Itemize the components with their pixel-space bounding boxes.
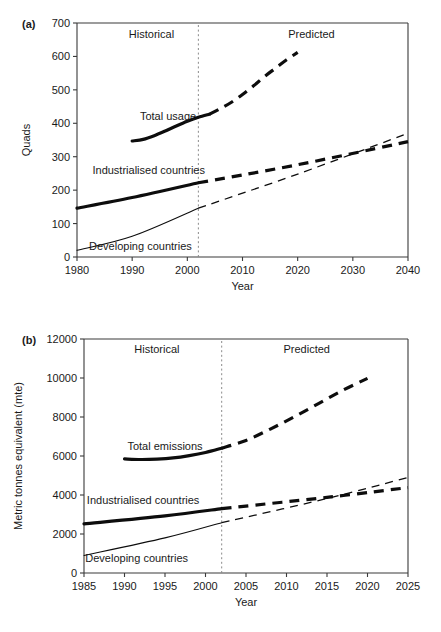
- annotation-total-emissions: Total emissions: [127, 440, 203, 452]
- x-tick-label: 2020: [355, 580, 379, 592]
- x-tick-label: 1995: [153, 580, 177, 592]
- panel-tag: (a): [22, 18, 36, 30]
- x-tick-label: 2010: [230, 264, 254, 276]
- series-total-usage-predicted: [209, 52, 297, 114]
- y-tick-label: 500: [52, 84, 70, 96]
- y-tick-label: 0: [71, 567, 77, 579]
- series-developing-countries-predicted: [198, 133, 408, 208]
- x-tick-label: 1990: [112, 580, 136, 592]
- x-tick-label: 1990: [120, 264, 144, 276]
- x-axis-title: Year: [231, 280, 254, 292]
- y-axis-title: Metric tonnes equivalent (mte): [12, 382, 24, 530]
- y-tick-label: 200: [52, 184, 70, 196]
- y-tick-label: 600: [52, 50, 70, 62]
- annotation-industrialised-countries: Industrialised countries: [92, 164, 205, 176]
- y-tick-label: 10000: [46, 372, 77, 384]
- annotation-predicted: Predicted: [288, 28, 334, 40]
- panel-b-plot: (b)0200040006000800010000120001985199019…: [0, 318, 441, 632]
- y-tick-label: 100: [52, 218, 70, 230]
- y-tick-label: 8000: [53, 411, 77, 423]
- annotation-developing-countries: Developing countries: [89, 240, 192, 252]
- y-axis-title: Quads: [20, 123, 32, 156]
- series-industrialised-countries-predicted: [198, 142, 408, 183]
- annotation-industrialised-countries: Industrialised countries: [87, 494, 200, 506]
- y-tick-label: 400: [52, 117, 70, 129]
- series-industrialised-countries-predicted: [222, 488, 408, 509]
- x-tick-label: 1980: [65, 264, 89, 276]
- x-tick-label: 2030: [341, 264, 365, 276]
- x-tick-label: 2000: [193, 580, 217, 592]
- series-industrialised-countries-historical: [77, 183, 198, 208]
- y-tick-label: 12000: [46, 333, 77, 345]
- panel-a-plot: (a)0100200300400500600700198019902000201…: [0, 0, 441, 300]
- figure-two-panel-energy-projection: (a)0100200300400500600700198019902000201…: [0, 0, 441, 632]
- x-tick-label: 2020: [285, 264, 309, 276]
- chart-panel-a: (a)0100200300400500600700198019902000201…: [0, 0, 441, 300]
- y-tick-label: 6000: [53, 450, 77, 462]
- annotation-developing-countries: Developing countries: [85, 552, 188, 564]
- y-tick-label: 700: [52, 17, 70, 29]
- x-tick-label: 2000: [175, 264, 199, 276]
- annotation-historical: Historical: [134, 343, 179, 355]
- panel-tag: (b): [22, 334, 36, 346]
- x-tick-label: 2040: [396, 264, 420, 276]
- chart-panel-b: (b)0200040006000800010000120001985199019…: [0, 318, 441, 632]
- x-tick-label: 2010: [274, 580, 298, 592]
- y-tick-label: 4000: [53, 489, 77, 501]
- y-tick-label: 0: [64, 251, 70, 263]
- x-tick-label: 1985: [72, 580, 96, 592]
- annotation-total-usage: Total usage: [140, 110, 196, 122]
- series-total-emissions-predicted: [222, 378, 368, 448]
- series-industrialised-countries-historical: [84, 509, 222, 524]
- annotation-historical: Historical: [129, 28, 174, 40]
- x-tick-label: 2025: [396, 580, 420, 592]
- annotation-predicted: Predicted: [284, 343, 330, 355]
- series-developing-countries-historical: [84, 523, 222, 556]
- y-tick-label: 300: [52, 151, 70, 163]
- x-axis-title: Year: [235, 596, 258, 608]
- y-tick-label: 2000: [53, 528, 77, 540]
- x-tick-label: 2015: [315, 580, 339, 592]
- x-tick-label: 2005: [234, 580, 258, 592]
